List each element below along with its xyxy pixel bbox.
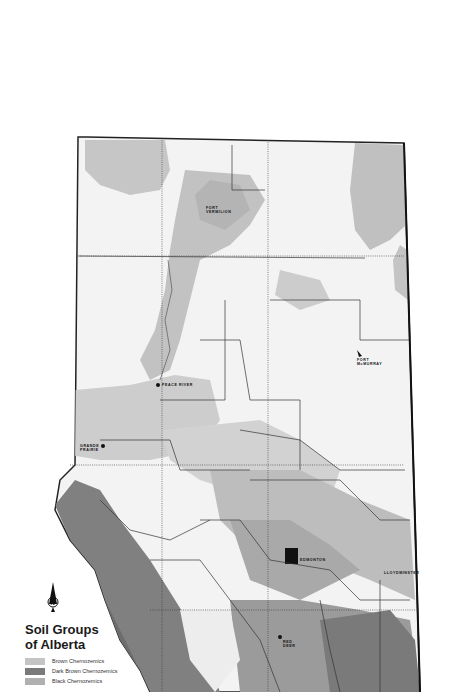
label-edmonton: EDMONTON bbox=[300, 558, 326, 562]
legend-label: Dark Brown Chernozemics bbox=[52, 668, 117, 674]
label-fort-vermilion: FORTVERMILION bbox=[206, 206, 231, 214]
label-lloydminster: LLOYDMINSTER bbox=[384, 571, 420, 575]
label-red-deer: REDDEER bbox=[283, 640, 295, 648]
label-peace-river: PEACE RIVER bbox=[162, 383, 193, 387]
red-deer-marker bbox=[278, 635, 282, 639]
legend-item-brown: Brown Chernozemics bbox=[25, 656, 104, 666]
alberta-soil-map: N bbox=[0, 0, 459, 692]
legend-label: Black Chernozemics bbox=[52, 678, 102, 684]
legend-item-black: Black Chernozemics bbox=[25, 676, 102, 686]
grande-prairie-marker bbox=[101, 444, 105, 448]
legend-label: Brown Chernozemics bbox=[52, 658, 104, 664]
legend-swatch bbox=[25, 668, 45, 675]
peace-river-marker bbox=[156, 383, 160, 387]
label-fort-mcmurray: FORTMcMURRAY bbox=[357, 358, 382, 366]
north-arrow-icon: N bbox=[48, 582, 58, 612]
legend-swatch bbox=[25, 678, 45, 685]
legend-swatch bbox=[25, 658, 45, 665]
legend-item-dark-brown: Dark Brown Chernozemics bbox=[25, 666, 117, 676]
edmonton-marker bbox=[285, 548, 298, 564]
svg-text:N: N bbox=[51, 600, 55, 606]
label-grande-prairie: GRANDEPRAIRIE bbox=[80, 444, 99, 452]
legend-title: Soil Groupsof Alberta bbox=[25, 622, 99, 652]
